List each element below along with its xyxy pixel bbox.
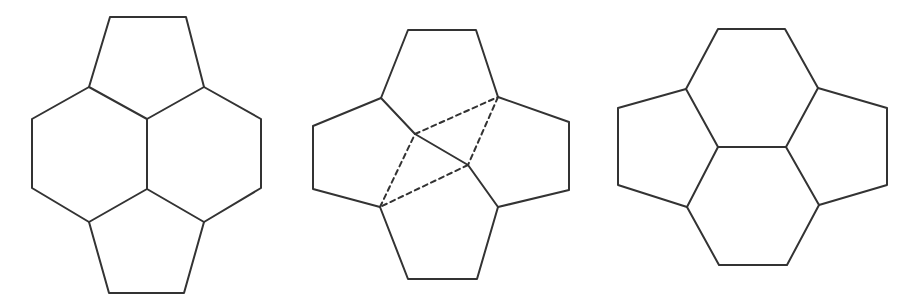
solid-edge bbox=[686, 29, 818, 147]
diagram-canvas bbox=[0, 0, 919, 305]
solid-edge bbox=[89, 222, 204, 293]
figure-1-pentagon-hexagon-cluster bbox=[32, 17, 261, 293]
solid-edge bbox=[89, 17, 204, 119]
solid-edge bbox=[313, 98, 381, 207]
solid-edge bbox=[498, 97, 569, 207]
dashed-edge bbox=[468, 97, 498, 165]
solid-edge bbox=[380, 207, 498, 279]
dashed-edge bbox=[380, 134, 415, 207]
polygon-tiling-diagram bbox=[0, 0, 919, 305]
solid-edge bbox=[381, 30, 498, 98]
figure-2-four-pentagon-cluster bbox=[313, 30, 569, 279]
solid-edge bbox=[147, 87, 261, 222]
solid-edge bbox=[32, 87, 147, 222]
solid-edge bbox=[381, 98, 498, 207]
dashed-edge bbox=[415, 97, 498, 134]
solid-edge bbox=[786, 88, 887, 205]
solid-edge bbox=[618, 89, 718, 207]
dashed-edge bbox=[380, 165, 468, 207]
solid-edge bbox=[687, 205, 819, 265]
figure-3-hexagon-pentagon-cluster bbox=[618, 29, 887, 265]
